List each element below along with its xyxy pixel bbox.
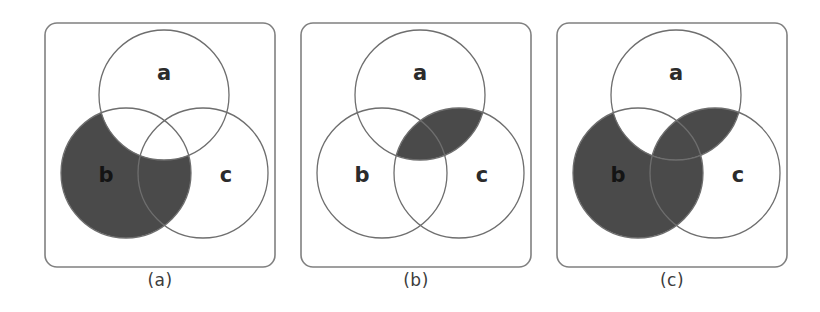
panel-a-caption: (a) <box>44 270 276 290</box>
set-label-a: a <box>157 61 171 85</box>
panel-a-border: a b c <box>44 22 276 268</box>
panel-c-caption: (c) <box>556 270 788 290</box>
panel-a-shaded-region <box>44 22 276 268</box>
set-label-c: c <box>220 163 232 187</box>
panel-a: a b c (a) <box>36 0 292 312</box>
set-label-c: c <box>732 163 744 187</box>
panel-b-border: a b c <box>300 22 532 268</box>
set-label-c: c <box>476 163 488 187</box>
venn-svg-b: a b c <box>300 22 532 268</box>
set-label-b: b <box>354 163 369 187</box>
panel-b-caption: (b) <box>300 270 532 290</box>
panel-c: a b c (c) <box>548 0 804 312</box>
set-label-a: a <box>413 61 427 85</box>
venn-figure: a b c (a) <box>0 0 820 312</box>
venn-svg-c: a b c <box>556 22 788 268</box>
panel-c-border: a b c <box>556 22 788 268</box>
set-label-a: a <box>669 61 683 85</box>
set-label-b: b <box>610 163 625 187</box>
set-label-b: b <box>98 163 113 187</box>
panel-b: a b c (b) <box>292 0 548 312</box>
venn-svg-a: a b c <box>44 22 276 268</box>
